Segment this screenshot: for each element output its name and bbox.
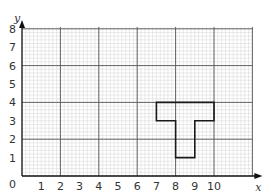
y-tick-label: 2 [9,133,16,146]
x-tick-label: 5 [115,180,122,193]
t-shape-outline [156,102,214,157]
x-tick-label: 2 [57,180,64,193]
x-tick-label: 10 [207,180,221,193]
x-tick-label: 1 [38,180,45,193]
y-tick-label: 4 [9,96,16,109]
x-tick-label: 6 [134,180,141,193]
origin-label: 0 [9,178,16,191]
x-tick-label: 4 [95,180,102,193]
y-tick-label: 3 [9,115,16,128]
y-tick-label: 6 [9,60,16,73]
y-tick-label: 5 [9,78,16,91]
x-tick-label: 3 [76,180,83,193]
coordinate-grid: 12345678910123456780xy [0,0,271,196]
x-axis-label: x [255,181,262,194]
tick-labels: 12345678910123456780xy [9,12,262,194]
x-tick-label: 9 [191,180,198,193]
y-tick-label: 7 [9,41,16,54]
x-tick-label: 7 [153,180,160,193]
t-shape [156,102,214,157]
x-arrow-icon [254,173,262,179]
y-axis-label: y [13,12,21,25]
axes [19,20,262,179]
y-tick-label: 1 [9,152,16,165]
x-tick-label: 8 [172,180,179,193]
